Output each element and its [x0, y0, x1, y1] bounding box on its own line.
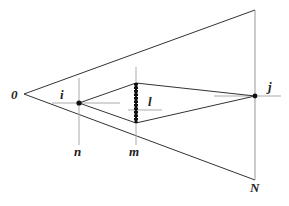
ray-i-to-lens-top: [79, 83, 136, 103]
point-i: [76, 100, 81, 105]
label-n: n: [74, 144, 81, 159]
ray-diagram: 0 i l j n m N: [0, 0, 289, 206]
lower-ray: [24, 94, 255, 180]
label-j: j: [266, 79, 272, 94]
label-origin: 0: [11, 87, 18, 102]
upper-ray: [24, 10, 255, 94]
label-m: m: [129, 144, 139, 159]
label-l: l: [148, 94, 152, 109]
ray-lens-top-to-j: [136, 83, 255, 96]
ray-i-to-lens-bottom: [79, 103, 136, 123]
label-i: i: [60, 87, 64, 102]
label-N: N: [249, 180, 260, 195]
point-j: [253, 94, 258, 99]
